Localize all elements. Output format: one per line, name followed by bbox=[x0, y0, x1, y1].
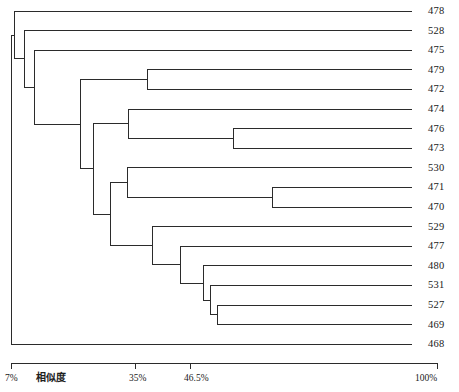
leaf-label-531: 531 bbox=[428, 280, 444, 291]
leaf-label-479: 479 bbox=[428, 65, 444, 76]
dendrogram-canvas bbox=[0, 0, 459, 392]
leaf-label-471: 471 bbox=[428, 182, 444, 193]
leaf-label-473: 473 bbox=[428, 143, 444, 154]
leaf-label-478: 478 bbox=[428, 6, 444, 17]
leaf-label-470: 470 bbox=[428, 202, 444, 213]
leaf-label-527: 527 bbox=[428, 300, 444, 311]
leaf-label-476: 476 bbox=[428, 124, 444, 135]
leaf-label-528: 528 bbox=[428, 26, 444, 37]
leaf-label-480: 480 bbox=[428, 261, 444, 272]
axis-tick-label-46.5%: 46.5% bbox=[184, 374, 209, 384]
leaf-label-472: 472 bbox=[428, 84, 444, 95]
axis-tick-label-35%: 35% bbox=[129, 374, 146, 384]
leaf-label-530: 530 bbox=[428, 163, 444, 174]
leaf-label-477: 477 bbox=[428, 241, 444, 252]
leaf-label-529: 529 bbox=[428, 222, 444, 233]
dendrogram-figure: 4785284754794724744764735304714705294774… bbox=[0, 0, 459, 392]
leaf-label-468: 468 bbox=[428, 339, 444, 350]
axis-title: 相似度 bbox=[36, 373, 66, 383]
axis-tick-label-7%: 7% bbox=[5, 374, 18, 384]
leaf-label-469: 469 bbox=[428, 320, 444, 331]
axis-tick-label-100%: 100% bbox=[415, 374, 437, 384]
leaf-label-475: 475 bbox=[428, 45, 444, 56]
leaf-label-474: 474 bbox=[428, 104, 444, 115]
